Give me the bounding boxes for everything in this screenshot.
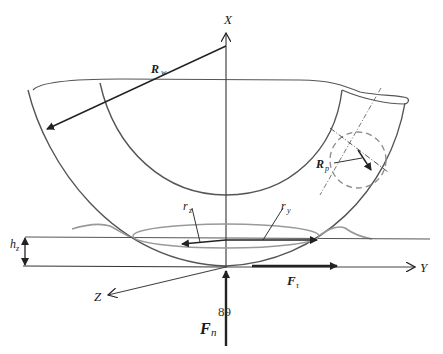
- ground-pileup-right: [320, 227, 372, 239]
- contact-radius-y-label: r: [281, 199, 286, 213]
- page-number: 89: [218, 304, 231, 319]
- y-axis-label: Y: [420, 260, 429, 275]
- wheel-outer-arc: [28, 90, 405, 266]
- wheel-radius-sub: w: [161, 68, 167, 77]
- depth-sub: z: [15, 244, 20, 253]
- wheel-radius-arrow: [47, 46, 226, 129]
- contact-radius-z-arrow: [182, 240, 226, 244]
- profile-circle: [330, 132, 386, 188]
- contact-radius-y-leader: [263, 208, 283, 240]
- wheel-rim-top: [33, 79, 408, 104]
- profile-radius-arrow: [358, 150, 371, 170]
- profile-centerline: [320, 88, 381, 195]
- contact-radius-y-sub: y: [286, 206, 291, 215]
- normal-force-label: F: [199, 320, 211, 337]
- profile-diameter-line: [330, 128, 388, 172]
- profile-radius-label: R: [315, 157, 324, 171]
- normal-force-sub: n: [211, 326, 217, 338]
- z-axis: [108, 267, 226, 295]
- wheel-inner-arc: [100, 83, 342, 195]
- contact-radius-z-label: r: [183, 199, 188, 213]
- profile-radius-leader: [334, 158, 362, 163]
- contact-mechanics-diagram: X Y Z R w R p r z r y h z F τ F n 89: [0, 0, 443, 354]
- tangential-force-sub: τ: [296, 281, 300, 290]
- profile-radius-sub: p: [324, 164, 329, 173]
- wheel-radius-label: R: [150, 62, 159, 76]
- tangential-force-label: F: [286, 273, 296, 288]
- depth-reference-line: [23, 266, 226, 267]
- x-axis-label: X: [223, 12, 233, 27]
- z-axis-label: Z: [94, 289, 102, 304]
